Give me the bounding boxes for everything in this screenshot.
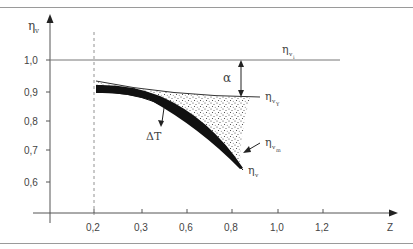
y-ticks (46, 60, 50, 182)
y-axis (47, 14, 54, 223)
y-tick-label: 0,6 (24, 177, 38, 188)
svg-text:η: η (248, 164, 255, 177)
label-eta-vy: η v Y (265, 90, 280, 107)
arrow-icon (243, 146, 251, 153)
svg-text:Y: Y (275, 101, 280, 107)
svg-text:ΔT: ΔT (146, 130, 162, 143)
y-tick-labels: 1,0 0,9 0,8 0,7 0,6 (24, 55, 38, 188)
svg-text:i: i (293, 54, 295, 60)
label-delta-t: ΔT (146, 108, 164, 143)
svg-text:m: m (276, 147, 281, 153)
label-alpha: α (223, 71, 231, 85)
svg-text:v: v (254, 171, 259, 178)
alpha-arrow (238, 60, 244, 97)
x-tick-label: 0,3 (134, 222, 148, 233)
y-axis-arrow-icon (47, 14, 54, 23)
x-tick-label: 1,0 (270, 222, 284, 233)
x-ticks (94, 209, 323, 213)
x-tick-label: 0,2 (86, 222, 100, 233)
x-axis-arrow-icon (389, 210, 398, 217)
svg-text:v: v (34, 27, 39, 35)
x-tick-label: 1,2 (315, 222, 329, 233)
arrow-up-icon (238, 60, 244, 67)
y-tick-label: 1,0 (24, 55, 38, 66)
svg-text:η: η (265, 136, 272, 149)
x-axis-label: Z (387, 222, 393, 233)
label-eta-vi: η v i (282, 43, 295, 60)
arrow-icon (158, 120, 164, 127)
x-axis (33, 210, 398, 217)
y-axis-label: η v (28, 19, 39, 35)
chart: 1,0 0,9 0,8 0,7 0,6 0,2 0,3 0,6 0,8 1,0 … (0, 0, 413, 249)
label-eta-v: η v (248, 164, 259, 178)
y-tick-label: 0,9 (24, 87, 38, 98)
label-eta-vm: η v m (243, 136, 281, 153)
y-tick-label: 0,8 (24, 116, 38, 127)
stippled-region (96, 82, 260, 164)
svg-text:η: η (282, 43, 289, 56)
arrow-down-icon (238, 90, 244, 97)
svg-text:η: η (265, 90, 272, 103)
x-tick-label: 0,6 (179, 222, 193, 233)
x-tick-labels: 0,2 0,3 0,6 0,8 1,0 1,2 Z (86, 222, 393, 233)
x-tick-label: 0,8 (224, 222, 238, 233)
y-tick-label: 0,7 (24, 145, 38, 156)
